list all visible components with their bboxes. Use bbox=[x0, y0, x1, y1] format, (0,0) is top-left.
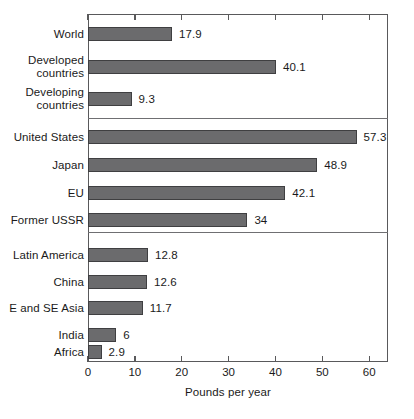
category-label-line: India bbox=[0, 329, 84, 342]
category-label-line: United States bbox=[0, 131, 84, 144]
bar-world bbox=[88, 27, 172, 41]
category-label-africa: Africa bbox=[0, 346, 84, 359]
category-label-eu: EU bbox=[0, 187, 84, 200]
bar-row: 34 bbox=[88, 213, 388, 227]
bar-row: 2.9 bbox=[88, 345, 388, 359]
category-label-line: E and SE Asia bbox=[0, 302, 84, 315]
x-tick-label-60: 60 bbox=[349, 366, 389, 378]
category-label-e-and-se-asia: E and SE Asia bbox=[0, 302, 84, 315]
bar-united-states bbox=[88, 130, 357, 144]
category-label-line: Developing bbox=[0, 86, 84, 99]
x-axis-title-text: Pounds per year bbox=[143, 386, 271, 398]
x-tick-label-20: 20 bbox=[162, 366, 202, 378]
bar-latin-america bbox=[88, 248, 148, 262]
category-label-line: Japan bbox=[0, 159, 84, 172]
bar-row: 12.6 bbox=[88, 275, 388, 289]
bar-value-label: 48.9 bbox=[324, 157, 347, 173]
group-separator-1 bbox=[88, 118, 388, 119]
bar-value-label: 17.9 bbox=[179, 26, 202, 42]
bar-value-label: 40.1 bbox=[283, 59, 306, 75]
category-label-latin-america: Latin America bbox=[0, 249, 84, 262]
group-separator-2 bbox=[88, 232, 388, 233]
bar-value-label: 34 bbox=[254, 212, 267, 228]
x-tick-top-30 bbox=[228, 14, 229, 20]
bar-row: 40.1 bbox=[88, 60, 388, 74]
x-tick-label-30: 30 bbox=[209, 366, 249, 378]
x-tick-top-40 bbox=[275, 14, 276, 20]
category-label-line: Former USSR bbox=[0, 214, 84, 227]
category-label-line: China bbox=[0, 276, 84, 289]
bar-india bbox=[88, 328, 116, 342]
x-tick-top-50 bbox=[322, 14, 323, 20]
bar-e-and-se-asia bbox=[88, 301, 143, 315]
bar-value-label: 2.9 bbox=[109, 344, 125, 360]
x-axis-title: Pounds per year bbox=[0, 386, 414, 398]
category-label-line: Latin America bbox=[0, 249, 84, 262]
x-tick-top-10 bbox=[134, 14, 135, 20]
category-label-line: Developed bbox=[0, 54, 84, 67]
bar-row: 11.7 bbox=[88, 301, 388, 315]
bar-china bbox=[88, 275, 147, 289]
category-label-line: Africa bbox=[0, 346, 84, 359]
bar-africa bbox=[88, 345, 102, 359]
category-label-india: India bbox=[0, 329, 84, 342]
category-label-line: countries bbox=[0, 67, 84, 80]
x-tick-label-50: 50 bbox=[302, 366, 342, 378]
category-label-japan: Japan bbox=[0, 159, 84, 172]
bar-value-label: 9.3 bbox=[139, 91, 155, 107]
category-label-line: World bbox=[0, 28, 84, 41]
bar-row: 42.1 bbox=[88, 186, 388, 200]
category-label-world: World bbox=[0, 28, 84, 41]
x-tick-label-40: 40 bbox=[256, 366, 296, 378]
bar-value-label: 11.7 bbox=[150, 300, 172, 316]
bar-row: 17.9 bbox=[88, 27, 388, 41]
bar-row: 12.8 bbox=[88, 248, 388, 262]
bar-developing-countries bbox=[88, 92, 132, 106]
bar-value-label: 6 bbox=[123, 327, 130, 343]
bar-japan bbox=[88, 158, 317, 172]
bar-developed-countries bbox=[88, 60, 276, 74]
category-label-developed-countries: Developedcountries bbox=[0, 54, 84, 80]
bar-value-label: 42.1 bbox=[292, 185, 315, 201]
bar-row: 9.3 bbox=[88, 92, 388, 106]
bar-eu bbox=[88, 186, 285, 200]
bar-row: 57.3 bbox=[88, 130, 388, 144]
x-tick-label-0: 0 bbox=[68, 366, 108, 378]
category-label-line: countries bbox=[0, 99, 84, 112]
x-tick-label-10: 10 bbox=[115, 366, 155, 378]
bar-row: 48.9 bbox=[88, 158, 388, 172]
category-label-developing-countries: Developingcountries bbox=[0, 86, 84, 112]
bar-former-ussr bbox=[88, 213, 247, 227]
horizontal-bar-chart: 010203040506017.9World40.1Developedcount… bbox=[0, 0, 414, 419]
bar-value-label: 12.8 bbox=[155, 247, 178, 263]
category-label-former-ussr: Former USSR bbox=[0, 214, 84, 227]
bar-value-label: 12.6 bbox=[154, 274, 177, 290]
x-tick-top-0 bbox=[87, 14, 88, 20]
category-label-united-states: United States bbox=[0, 131, 84, 144]
category-label-line: EU bbox=[0, 187, 84, 200]
category-label-china: China bbox=[0, 276, 84, 289]
bar-row: 6 bbox=[88, 328, 388, 342]
x-tick-top-20 bbox=[181, 14, 182, 20]
bar-value-label: 57.3 bbox=[364, 129, 387, 145]
x-tick-top-60 bbox=[369, 14, 370, 20]
